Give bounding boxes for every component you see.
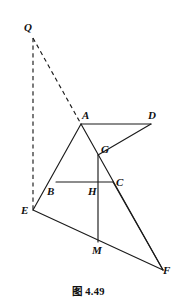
vertex-label-G: G (101, 144, 109, 155)
vertex-label-D: D (148, 110, 156, 121)
vertex-label-H: H (88, 186, 97, 197)
vertex-label-Q: Q (24, 22, 32, 33)
geometry-drawing (0, 0, 177, 303)
segment-AE (33, 124, 81, 210)
vertex-label-B: B (47, 186, 54, 197)
segment-CF (113, 182, 163, 270)
figure-container: Q A D G B H C E M F 图 4.49 (0, 0, 177, 303)
vertex-label-C: C (116, 177, 123, 188)
vertex-label-A: A (82, 110, 89, 121)
segment-QA (33, 38, 81, 124)
vertex-label-F: F (163, 265, 170, 276)
figure-caption: 图 4.49 (0, 283, 177, 298)
vertex-label-M: M (92, 245, 102, 256)
vertex-label-E: E (21, 205, 28, 216)
